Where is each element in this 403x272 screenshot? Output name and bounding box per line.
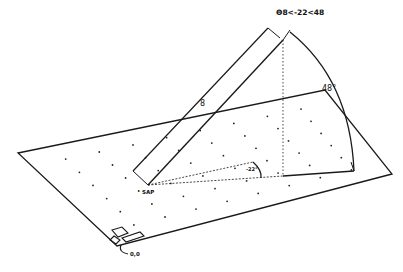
title-label: Θ8<-22<48 bbox=[276, 8, 324, 17]
grid-dot bbox=[119, 211, 121, 213]
grid-dot bbox=[133, 224, 135, 226]
elevation-arc bbox=[290, 32, 354, 171]
grid-dot bbox=[266, 160, 268, 162]
grid-dot bbox=[288, 140, 290, 142]
base-line bbox=[283, 171, 354, 176]
grid-dot bbox=[125, 177, 127, 179]
grid-dot bbox=[183, 195, 185, 197]
grid-dot bbox=[226, 200, 228, 202]
dimension-tick-start bbox=[133, 171, 148, 185]
grid-dot bbox=[164, 216, 166, 218]
grid-dot bbox=[132, 144, 134, 146]
grid-dot bbox=[246, 180, 248, 182]
grid-dot bbox=[65, 158, 67, 160]
ground-projection-line bbox=[148, 176, 283, 185]
grid-dot bbox=[319, 177, 321, 179]
grid-dot bbox=[320, 133, 322, 135]
grid-dot bbox=[310, 120, 312, 122]
grid-dot bbox=[92, 185, 94, 187]
grid-dot bbox=[106, 198, 108, 200]
grid-dot bbox=[257, 193, 259, 195]
grid-dot bbox=[214, 188, 216, 190]
device-label: 0,0 bbox=[130, 251, 140, 257]
geometry-diagram: Θ8<-22<48 8 48° -22° SAP 0,0 bbox=[0, 0, 403, 272]
grid-dot bbox=[309, 165, 311, 167]
vector-line bbox=[148, 40, 283, 185]
grid-dot bbox=[190, 162, 192, 164]
origin-label: SAP bbox=[142, 189, 154, 195]
dimension-tick-end bbox=[268, 28, 280, 38]
grid-dot bbox=[195, 208, 197, 210]
dimension-tick-apex bbox=[283, 30, 290, 40]
grid-dot bbox=[244, 135, 246, 137]
grid-dot bbox=[277, 128, 279, 130]
grid-dot bbox=[340, 157, 342, 159]
grid-dot bbox=[166, 137, 168, 139]
grid-dot bbox=[151, 203, 153, 205]
grid-dot bbox=[98, 151, 100, 153]
grid-dot bbox=[277, 172, 279, 174]
grid-dot bbox=[288, 185, 290, 187]
ground-plane bbox=[18, 90, 392, 246]
grid-dot bbox=[138, 190, 140, 192]
grid-dots bbox=[65, 108, 353, 226]
elevation-angle-label: 48° bbox=[322, 84, 336, 93]
azimuth-angle-label: -22° bbox=[246, 166, 258, 172]
grid-dot bbox=[300, 108, 302, 110]
grid-dot bbox=[330, 145, 332, 147]
grid-dot bbox=[79, 171, 81, 173]
grid-dot bbox=[233, 123, 235, 125]
grid-dot bbox=[267, 115, 269, 117]
grid-dot bbox=[255, 147, 257, 149]
grid-dot bbox=[223, 155, 225, 157]
grid-dot bbox=[234, 167, 236, 169]
distance-label: 8 bbox=[200, 99, 205, 108]
grid-dot bbox=[211, 142, 213, 144]
grid-dot bbox=[298, 152, 300, 154]
grid-dot bbox=[202, 175, 204, 177]
grid-dot bbox=[157, 170, 159, 172]
grid-dot bbox=[112, 164, 114, 166]
